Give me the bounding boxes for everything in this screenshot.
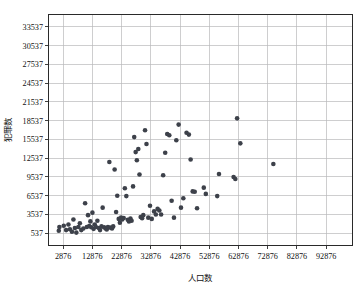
y-tick-label: 33537 [23,23,43,32]
data-point [136,147,141,152]
x-tick-label: 2876 [55,252,71,261]
data-point [111,224,116,229]
data-point [157,208,162,213]
data-point [88,219,93,224]
y-axis-tick-labels: 5373537653795371253715537185372153724537… [23,23,43,238]
data-point [114,210,119,215]
plot-area-border [49,15,353,246]
data-point [201,185,206,190]
data-point [71,217,76,222]
data-point [70,229,75,234]
data-point [129,218,134,223]
y-tick-label: 15537 [23,135,43,144]
data-point [141,213,146,218]
y-tick-label: 30537 [23,42,43,51]
y-tick-label: 18537 [23,117,43,126]
data-point [169,198,174,203]
data-point [123,186,128,191]
data-point [74,230,79,235]
data-point [217,172,222,177]
data-point [100,205,105,210]
data-point [159,212,164,217]
data-point [137,172,142,177]
x-tick-label: 22876 [111,252,131,261]
data-point [195,206,200,211]
data-point [174,138,179,143]
y-tick-label: 537 [31,229,43,238]
data-point [57,225,62,230]
data-point [86,213,91,218]
data-point [112,167,117,172]
data-point [66,222,71,227]
y-tick-label: 24537 [23,79,43,88]
x-tick-label: 92876 [316,252,336,261]
data-point [78,221,83,226]
data-point [121,216,126,221]
data-point [90,210,95,215]
data-point [131,184,136,189]
data-point [215,194,220,199]
data-point [176,122,181,127]
data-point [143,128,148,133]
data-point [107,160,112,165]
x-tick-label: 42876 [170,252,190,261]
data-point [187,132,192,137]
y-tick-label: 3537 [27,210,43,219]
data-point [148,203,153,208]
x-tick-label: 32876 [141,252,161,261]
data-point [233,177,238,182]
data-point [154,212,159,217]
horizontal-gridlines [49,27,353,233]
data-point [124,194,129,199]
data-point [167,133,172,138]
data-point [235,116,240,121]
data-point [132,135,137,140]
data-point [163,150,168,155]
y-tick-label: 9537 [27,173,43,182]
data-point [135,158,140,163]
data-point [179,205,184,210]
x-axis-tick-labels: 2876128762287632876428765287662876728768… [55,252,336,261]
scatter-plot-canvas: 5373537653795371253715537185372153724537… [0,0,364,287]
scatter-chart-figure: 5373537653795371253715537185372153724537… [0,0,364,287]
data-point [192,189,197,194]
data-point [204,192,209,197]
x-tick-label: 12876 [82,252,102,261]
data-point [161,173,166,178]
data-point [83,201,88,206]
y-tick-label: 6537 [27,192,43,201]
data-point [172,215,177,220]
data-point [188,157,193,162]
data-point [271,162,276,167]
data-point [95,218,100,223]
y-tick-label: 12537 [23,154,43,163]
x-tick-label: 82876 [287,252,307,261]
data-point [149,217,154,222]
x-tick-label: 72876 [257,252,277,261]
x-axis-title: 人口数 [188,273,213,283]
y-axis-title: 犯罪数 [3,117,13,142]
vertical-gridlines [63,15,326,246]
data-point [144,142,149,147]
data-point [61,223,66,228]
data-point [238,141,243,146]
data-point [181,196,186,201]
y-tick-label: 21537 [23,98,43,107]
x-tick-label: 52876 [199,252,219,261]
x-tick-label: 62876 [228,252,248,261]
data-point-series [57,116,276,235]
y-tick-label: 27537 [23,60,43,69]
data-point [115,193,120,198]
